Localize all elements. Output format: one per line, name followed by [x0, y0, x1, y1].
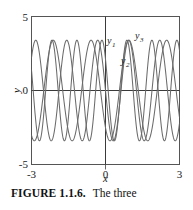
figure-caption-text: The three [93, 187, 137, 199]
xtick-label-right: 3 [177, 168, 183, 180]
annotation-y3-subscript: 3 [139, 36, 144, 44]
plot-area: 5 0 -5 -3 0 3 y x y 1 y 2 y 3 [0, 0, 193, 182]
ytick-label-mid: 0 [23, 84, 29, 96]
chart-svg: 5 0 -5 -3 0 3 y x y 1 y 2 y 3 [0, 0, 193, 182]
annotation-y1-subscript: 1 [112, 41, 116, 49]
figure-caption: FIGURE 1.1.6.The three [11, 186, 189, 200]
xtick-label-left: -3 [27, 168, 37, 180]
annotation-y2-subscript: 2 [126, 61, 130, 69]
y-axis-label: y [10, 88, 22, 94]
figure-container: 5 0 -5 -3 0 3 y x y 1 y 2 y 3 FIGURE 1.1… [0, 0, 193, 210]
x-axis-label: x [102, 172, 108, 182]
ytick-label-top: 5 [23, 11, 29, 23]
figure-caption-label: FIGURE 1.1.6. [11, 187, 86, 199]
